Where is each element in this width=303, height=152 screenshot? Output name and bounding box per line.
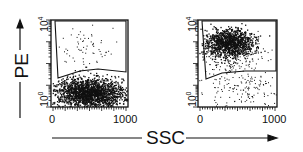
plot2-x-min: 0 [197,114,203,125]
plot2-y-min: 100 [185,92,197,107]
scatter-plot-1 [46,20,128,111]
scatter-plot-2 [193,20,277,111]
plot1-x-min: 0 [49,114,55,125]
plot1-x-max: 1000 [113,114,137,125]
plot2-y-max: 104 [185,17,197,32]
plot2-x-max: 1000 [262,114,286,125]
plot1-y-max: 104 [37,17,49,32]
plot1-y-min: 100 [37,92,49,107]
x-axis-label: SSC [146,128,185,147]
y-axis-label: PE [12,55,31,79]
